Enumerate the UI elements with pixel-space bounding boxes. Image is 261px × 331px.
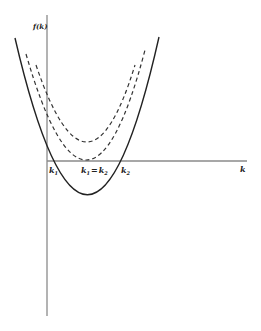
k2-label: k2 <box>121 165 131 176</box>
dashed-tangent-parabola <box>26 50 145 160</box>
dashed-upper-parabola <box>36 65 135 142</box>
k1-equals-k2-label: k1=k2 <box>81 165 108 176</box>
y-axis-label: f(k) <box>32 22 48 31</box>
parabola-diagram: f(k) k k1 k1=k2 k2 <box>0 0 261 331</box>
x-axis-label: k <box>240 164 246 174</box>
